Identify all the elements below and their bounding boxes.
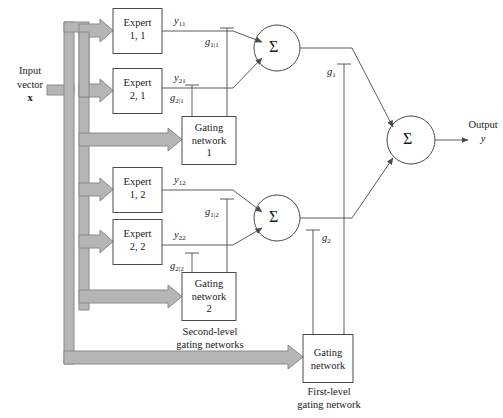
expert-1-1-line-1: Expert [113, 17, 162, 30]
signal-label-g2given1: g2|1 [170, 92, 184, 105]
y12-subscript: 12 [179, 179, 186, 187]
signal-label-y12: y12 [174, 174, 186, 187]
expert-1-2-label: Expert 1, 2 [113, 176, 162, 201]
signal-label-y21: y21 [174, 72, 186, 85]
g1given2-subscript: 1|2 [210, 211, 218, 219]
expert-2-1-line-1: Expert [113, 77, 162, 90]
input-vector-label: Input vector x [4, 64, 56, 105]
expert-2-1-label: Expert 2, 1 [113, 77, 162, 102]
second-level-caption-line-1: Second-level [148, 325, 272, 338]
y11-subscript: 11 [179, 20, 186, 28]
signal-label-g1: g1 [327, 66, 336, 79]
expert-1-1-label: Expert 1, 1 [113, 17, 162, 42]
g2given2-subscript: 2|2 [175, 265, 183, 273]
signal-label-g1given2: g1|2 [205, 206, 219, 219]
output-label: Output y [462, 118, 503, 145]
bus-arrow-gating-1 [79, 128, 182, 151]
gating-network-2-line-1: Gating [182, 278, 236, 291]
g1given1-subscript: 1|1 [210, 41, 218, 49]
gating-network-1-line-1: Gating [182, 122, 236, 135]
expert-2-2-label: Expert 2, 2 [113, 228, 162, 253]
signal-label-g2: g2 [322, 232, 331, 245]
input-line-3: x [4, 91, 56, 105]
gating-network-1-line-2: network [182, 135, 236, 148]
expert-2-2-line-2: 2, 2 [113, 241, 162, 254]
gating-network-1-line-3: 1 [182, 147, 236, 160]
y22-subscript: 22 [179, 234, 186, 242]
gating-network-1-label: Gating network 1 [182, 122, 236, 160]
gating-network-2-label: Gating network 2 [182, 278, 236, 316]
diagram-canvas [0, 0, 503, 418]
second-level-caption: Second-level gating networks [148, 325, 272, 351]
g2given1-subscript: 2|1 [175, 97, 183, 105]
expert-2-2-line-1: Expert [113, 228, 162, 241]
gating-network-2-line-2: network [182, 291, 236, 304]
signal-label-g1given1: g1|1 [205, 36, 219, 49]
bus-arrow-gating-2 [79, 285, 182, 308]
summer-bottom-glyph: Σ [269, 208, 278, 226]
input-line-2: vector [4, 78, 56, 92]
signal-label-y11: y11 [174, 15, 185, 28]
y21-subscript: 21 [179, 77, 186, 85]
expert-2-1-line-2: 2, 1 [113, 90, 162, 103]
gating-network-first-level-line-1: Gating [303, 347, 353, 360]
gating-network-first-level-label: Gating network [303, 347, 353, 372]
gating-network-2-line-3: 2 [182, 303, 236, 316]
signal-label-y22: y22 [174, 229, 186, 242]
output-line-1: Output [462, 118, 503, 132]
input-line-1: Input [4, 64, 56, 78]
signal-label-g2given2: g2|2 [170, 260, 184, 273]
g1-subscript: 1 [332, 71, 336, 79]
bus-arrow-expert-2-1 [79, 32, 113, 102]
summer-output-glyph: Σ [403, 130, 412, 148]
first-level-caption: First-level gating network [268, 385, 390, 411]
summer-top-glyph: Σ [269, 38, 278, 56]
output-line-2: y [462, 132, 503, 146]
expert-1-2-line-2: 1, 2 [113, 189, 162, 202]
first-level-caption-line-1: First-level [268, 385, 390, 398]
expert-1-1-line-2: 1, 1 [113, 30, 162, 43]
second-level-caption-line-2: gating networks [148, 338, 272, 351]
gating-network-first-level-line-2: network [303, 360, 353, 373]
expert-1-2-line-1: Expert [113, 176, 162, 189]
g2-subscript: 2 [327, 237, 331, 245]
hierarchical-mixture-of-experts-diagram: Input vector x Output y Expert 1, 1 Expe… [0, 0, 503, 418]
first-level-caption-line-2: gating network [268, 398, 390, 411]
